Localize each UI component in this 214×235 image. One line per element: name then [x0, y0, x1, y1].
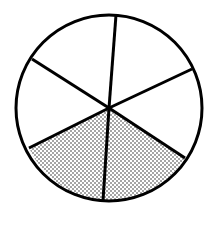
spoke-line [109, 15, 116, 108]
spoke-line [32, 59, 109, 108]
shaded-sector [103, 108, 185, 201]
shaded-sector [29, 108, 109, 201]
fraction-circle-diagram [0, 0, 214, 235]
spoke-line [109, 69, 192, 108]
